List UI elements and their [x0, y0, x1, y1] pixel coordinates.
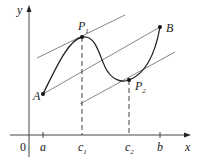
point-p1 [80, 35, 84, 39]
x-axis-label: x [184, 140, 191, 154]
tangent-line-p2 [80, 52, 175, 104]
point-label-a: A [32, 89, 41, 103]
point-label-p1: P1 [77, 19, 89, 35]
mean-value-theorem-diagram: y x 0 a c1 c2 b A P1 P2 B [0, 0, 202, 163]
tick-label-c1: c1 [78, 140, 87, 156]
y-axis-arrow-icon [27, 5, 32, 12]
y-axis-label: y [16, 3, 23, 17]
tick-label-a: a [40, 140, 46, 154]
x-axis-arrow-icon [184, 133, 191, 138]
point-label-p2: P2 [134, 79, 146, 95]
parallel-lines [37, 15, 175, 104]
axes [10, 5, 191, 157]
point-a [41, 92, 45, 96]
point-p2 [127, 78, 131, 82]
origin-label: 0 [20, 140, 26, 154]
tick-label-b: b [157, 140, 163, 154]
point-label-b: B [166, 21, 174, 35]
point-b [158, 25, 162, 29]
dashed-lines [82, 37, 129, 135]
tick-label-c2: c2 [125, 140, 134, 156]
